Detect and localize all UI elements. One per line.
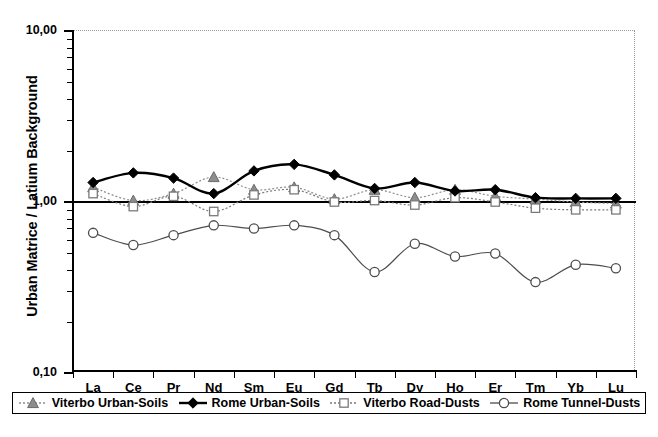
data-point xyxy=(289,159,299,169)
y-tick-major xyxy=(64,30,73,32)
data-point xyxy=(450,252,459,261)
data-point xyxy=(330,231,339,240)
data-point xyxy=(88,177,98,187)
data-point xyxy=(210,207,218,215)
data-point xyxy=(249,224,258,233)
legend-item-viterbo-urban-soils[interactable]: Viterbo Urban-Soils xyxy=(18,396,168,410)
legend-item-viterbo-road-dusts[interactable]: Viterbo Road-Dusts xyxy=(329,396,479,410)
y-tick-major xyxy=(64,201,73,203)
data-point xyxy=(128,168,138,178)
data-point xyxy=(169,192,177,200)
data-point xyxy=(168,173,178,183)
series-layer xyxy=(73,31,636,373)
data-point xyxy=(329,170,339,180)
data-point xyxy=(209,188,219,198)
data-point xyxy=(250,191,258,199)
triangle-marker-icon xyxy=(18,396,48,410)
y-tick-label: 0,10 xyxy=(33,365,57,379)
data-point xyxy=(89,228,98,237)
data-point xyxy=(571,206,579,214)
data-point xyxy=(370,196,378,204)
data-point xyxy=(410,239,419,248)
data-point xyxy=(129,202,137,210)
y-tick-label: 10,00 xyxy=(26,23,57,37)
series-rome-urban-soils xyxy=(88,159,621,203)
data-point xyxy=(491,198,499,206)
series-rome-tunnel-dusts xyxy=(89,221,621,287)
data-point xyxy=(290,186,298,194)
data-point xyxy=(411,201,419,209)
plot-area: 10,001,000,10 LaCePrNdSmEuGdTbDyHoErTmYb… xyxy=(72,30,635,372)
x-tick xyxy=(636,371,637,378)
data-point xyxy=(571,260,580,269)
data-point xyxy=(491,249,500,258)
legend-label: Viterbo Road-Dusts xyxy=(363,396,479,410)
circle-marker-icon xyxy=(489,396,519,410)
chart-legend: Viterbo Urban-SoilsRome Urban-SoilsViter… xyxy=(12,392,646,414)
data-point xyxy=(370,267,379,276)
chart-figure: Urban Matrice / Latium Background 10,001… xyxy=(0,0,658,437)
data-point xyxy=(129,240,138,249)
data-point xyxy=(89,189,97,197)
data-point xyxy=(249,166,259,176)
data-point xyxy=(208,172,219,182)
legend-item-rome-tunnel-dusts[interactable]: Rome Tunnel-Dusts xyxy=(489,396,640,410)
y-tick-major xyxy=(64,372,73,374)
legend-label: Rome Urban-Soils xyxy=(212,396,320,410)
series-viterbo-road-dusts xyxy=(89,186,620,216)
data-point xyxy=(612,206,620,214)
legend-item-rome-urban-soils[interactable]: Rome Urban-Soils xyxy=(178,396,320,410)
legend-label: Viterbo Urban-Soils xyxy=(52,396,168,410)
data-point xyxy=(531,204,539,212)
data-point xyxy=(209,221,218,230)
data-point xyxy=(330,198,338,206)
legend-label: Rome Tunnel-Dusts xyxy=(523,396,640,410)
data-point xyxy=(611,193,621,203)
data-point xyxy=(490,185,500,195)
data-point xyxy=(410,177,420,187)
data-point xyxy=(611,264,620,273)
diamond-marker-icon xyxy=(178,396,208,410)
square-marker-icon xyxy=(329,396,359,410)
data-point xyxy=(290,221,299,230)
data-point xyxy=(169,231,178,240)
y-tick-label: 1,00 xyxy=(33,194,57,208)
data-point xyxy=(531,278,540,287)
